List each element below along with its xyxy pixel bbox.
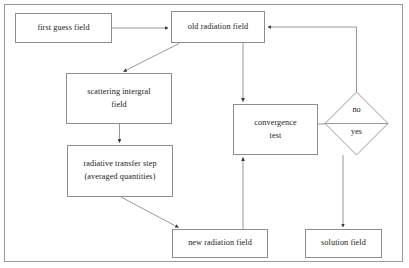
node-convergence-test[interactable]: convergence test (233, 104, 318, 155)
node-scattering-integral-field[interactable]: scattering intergral field (66, 73, 172, 124)
node-old-radiation-field[interactable]: old radiation field (171, 11, 265, 43)
node-label: old radiation field (188, 21, 249, 34)
node-label: new radiation field (188, 237, 252, 250)
node-label-line1: scattering intergral (87, 86, 150, 99)
node-label: first guess field (37, 22, 89, 35)
flowchart-page: first guess field old radiation field sc… (0, 0, 409, 268)
node-solution-field[interactable]: solution field (305, 229, 382, 258)
node-decision-diamond[interactable]: no yes (325, 92, 388, 155)
decision-label-no: no (325, 105, 388, 114)
node-label-line1: radiative transfer step (83, 158, 156, 171)
node-first-guess-field[interactable]: first guess field (15, 13, 112, 43)
node-label-line2: test (270, 130, 282, 143)
decision-label-yes: yes (325, 127, 388, 136)
node-radiative-transfer-step[interactable]: radiative transfer step (averaged quanti… (67, 145, 173, 197)
node-new-radiation-field[interactable]: new radiation field (172, 229, 268, 258)
node-label: solution field (321, 237, 366, 250)
node-label-line2: field (111, 99, 127, 112)
node-label-line1: convergence (254, 117, 296, 130)
node-label-line2: (averaged quantities) (85, 171, 156, 184)
